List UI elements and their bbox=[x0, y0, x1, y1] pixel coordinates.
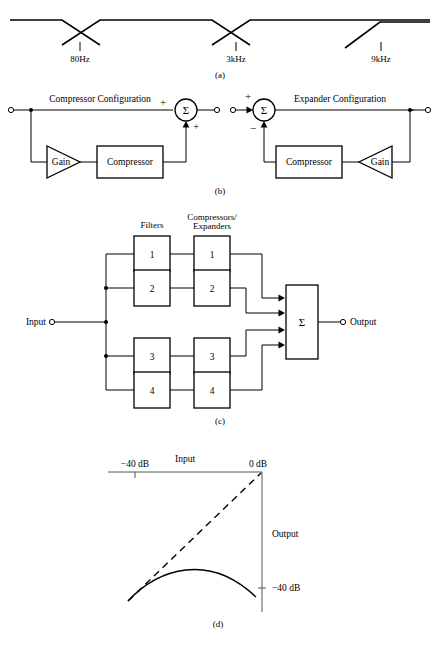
panel-c-summer-arrow-3 bbox=[279, 327, 286, 334]
panel-c-header-compressors-line2: Expanders bbox=[193, 221, 231, 231]
panel-d: Input −40 dB 0 dB Output −40 dB (d) bbox=[108, 454, 300, 629]
panel-c-bus-junction-input bbox=[104, 320, 108, 324]
panel-d-input-label: Input bbox=[175, 454, 195, 464]
panel-c-comp3-to-summer bbox=[230, 330, 246, 356]
panel-c-input-terminal bbox=[49, 319, 54, 324]
expander-sign-bottom: − bbox=[250, 122, 256, 134]
compressor-config-title: Compressor Configuration bbox=[49, 94, 151, 104]
panel-d-x-origin-label: 0 dB bbox=[249, 459, 267, 469]
panel-d-caption: (d) bbox=[213, 619, 224, 629]
panel-c-filter-label-4: 4 bbox=[150, 386, 155, 396]
expander-output-terminal bbox=[425, 107, 430, 112]
panel-c-comp2-to-summer bbox=[230, 288, 246, 313]
expander-input-arrow bbox=[247, 107, 254, 114]
panel-b-compressor: Σ + + Gain Compressor Compressor Configu… bbox=[8, 94, 219, 178]
panel-c-filter-label-3: 3 bbox=[150, 352, 155, 362]
expander-summer-symbol: Σ bbox=[261, 104, 267, 116]
compressor-gain-label: Gain bbox=[52, 157, 71, 167]
expander-config-title: Expander Configuration bbox=[294, 94, 386, 104]
panel-c-summer-arrow-1 bbox=[279, 295, 286, 302]
panel-b-caption: (b) bbox=[215, 186, 226, 196]
panel-b-expander: Σ + − Gain Compressor Expander Configura… bbox=[230, 90, 430, 178]
expander-summer-arrow bbox=[261, 121, 268, 128]
compressor-sign-top: + bbox=[160, 96, 166, 108]
panel-d-x-tick-label: −40 dB bbox=[121, 459, 149, 469]
compressor-input-terminal bbox=[8, 107, 13, 112]
panel-c-compressor-label-1: 1 bbox=[210, 250, 215, 260]
panel-c-filter-label-2: 2 bbox=[150, 284, 155, 294]
compressor-block-to-summer-wire bbox=[163, 124, 186, 162]
panel-a-label-80hz: 80Hz bbox=[70, 54, 90, 64]
expander-sign-top: + bbox=[245, 90, 251, 102]
compressor-summer-symbol: Σ bbox=[183, 104, 189, 116]
panel-a-band2-line bbox=[62, 20, 250, 45]
expander-feedback-wire bbox=[392, 110, 410, 162]
panel-a-label-9khz: 9kHz bbox=[371, 54, 391, 64]
panel-c-caption: (c) bbox=[215, 416, 225, 426]
panel-a-band1-line bbox=[10, 20, 100, 45]
panel-c-filter-label-1: 1 bbox=[150, 250, 155, 260]
expander-block-label: Compressor bbox=[286, 157, 333, 167]
panel-c-compressor-label-2: 2 bbox=[210, 284, 215, 294]
panel-a: 80Hz 3kHz 9kHz (a) bbox=[10, 20, 430, 80]
panel-c-summer-symbol: Σ bbox=[299, 316, 305, 328]
panel-c-input-label: Input bbox=[26, 317, 46, 327]
panel-d-output-label: Output bbox=[272, 529, 299, 539]
panel-d-response-curve bbox=[128, 570, 256, 601]
panel-a-label-3khz: 3kHz bbox=[226, 54, 246, 64]
panel-a-band4-line bbox=[345, 22, 430, 48]
figure-canvas: 80Hz 3kHz 9kHz (a) Σ + + Gain Compressor… bbox=[0, 0, 441, 650]
expander-input-terminal bbox=[230, 107, 235, 112]
panel-a-caption: (a) bbox=[215, 70, 225, 80]
panel-c: Filters Compressors/ Expanders Input 1 1… bbox=[26, 212, 377, 426]
expander-block-to-summer-wire bbox=[264, 124, 276, 162]
panel-d-y-tick-label: −40 dB bbox=[272, 583, 300, 593]
compressor-block-label: Compressor bbox=[107, 157, 154, 167]
panel-c-summer-arrow-4 bbox=[279, 342, 286, 349]
panel-d-unity-reference-line bbox=[128, 473, 261, 601]
compressor-sign-bottom: + bbox=[193, 120, 199, 132]
figure-root: 80Hz 3kHz 9kHz (a) Σ + + Gain Compressor… bbox=[0, 0, 441, 650]
compressor-summer-arrow bbox=[183, 121, 190, 128]
compressor-output-terminal bbox=[214, 107, 219, 112]
panel-c-output-terminal bbox=[340, 319, 345, 324]
expander-gain-label: Gain bbox=[371, 157, 390, 167]
panel-c-output-label: Output bbox=[350, 317, 377, 327]
panel-c-compressor-label-3: 3 bbox=[210, 352, 215, 362]
panel-c-compressor-label-4: 4 bbox=[210, 386, 215, 396]
panel-c-summer-arrow-2 bbox=[279, 310, 286, 317]
compressor-feedback-wire bbox=[31, 110, 47, 162]
panel-c-header-filters: Filters bbox=[140, 220, 163, 230]
